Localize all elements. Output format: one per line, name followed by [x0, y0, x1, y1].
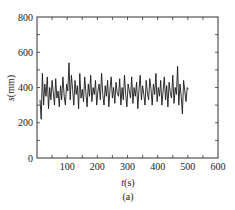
y-tick-label: 400: [18, 82, 33, 93]
x-tick-label: 400: [150, 161, 165, 172]
figure-caption: (a): [122, 191, 133, 203]
x-tick-label: 600: [211, 161, 226, 172]
chart-figure: 100200300400500600 0200400600800 t(s) (a…: [0, 0, 235, 210]
y-axis-label: s(mm): [5, 75, 17, 101]
data-series-line: [40, 63, 188, 119]
x-tick-label: 500: [180, 161, 195, 172]
x-tick-label: 100: [60, 161, 75, 172]
x-tick-label: 200: [90, 161, 105, 172]
x-tick-label: 300: [120, 161, 135, 172]
y-tick-label: 0: [28, 153, 33, 164]
y-tick-label: 800: [18, 12, 33, 23]
y-tick-label: 600: [18, 47, 33, 58]
y-tick-label: 200: [18, 117, 33, 128]
x-axis-label: t(s): [121, 177, 134, 189]
